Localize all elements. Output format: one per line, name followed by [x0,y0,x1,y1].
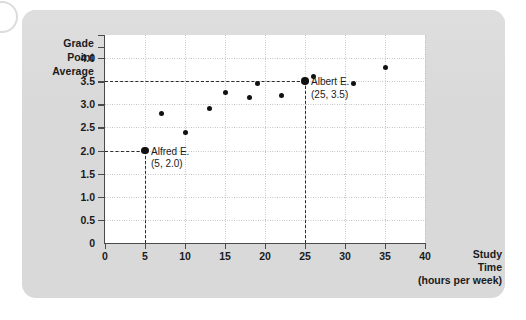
data-point [383,65,388,70]
x-axis-tick-label: 30 [330,250,360,262]
x-axis-title-line3: (hours per week) [398,274,502,287]
gridline-horizontal [105,197,425,198]
annotation: Albert E.(25, 3.5) [311,76,349,101]
gridline-horizontal [105,174,425,175]
y-axis-origin-label: 0 [55,237,95,249]
data-point [279,93,284,98]
gridline-horizontal [105,127,425,128]
x-axis-tick [265,243,266,249]
gridline-horizontal [105,104,425,105]
x-axis-tick-label: 25 [290,250,320,262]
gridline-vertical [185,35,186,243]
x-axis-tick [305,243,306,249]
gridline-horizontal [105,220,425,221]
x-axis-tick [185,243,186,249]
y-axis-tick-label: 3.0 [55,98,95,110]
x-axis-tick [105,243,106,249]
annotation: Alfred E.(5, 2.0) [151,146,189,171]
y-axis-tick [98,81,105,82]
data-point [183,130,188,135]
y-axis-title-line2: Point [38,51,94,63]
y-axis-tick-label: 3.5 [55,75,95,87]
data-point-highlighted [301,77,309,85]
gridline-vertical [425,35,426,243]
data-point [351,81,356,86]
y-axis-tick-label: 2.0 [55,145,95,157]
x-axis-tick [345,243,346,249]
annotation-name: Albert E. [311,76,349,89]
annotation-coords: (25, 3.5) [311,89,349,102]
data-point-highlighted [141,147,149,155]
y-axis-tick [98,220,105,221]
x-axis-tick-label: 0 [90,250,120,262]
annotation-coords: (5, 2.0) [151,158,189,171]
gridline-vertical [265,35,266,243]
y-axis-line [104,35,105,244]
x-axis-tick [385,243,386,249]
y-axis-tick [98,197,105,198]
figure-stage: 05101520253035400.51.01.52.02.53.03.54.0… [0,0,526,320]
y-axis-tick [98,58,105,59]
data-point [223,90,228,95]
guide-line-vertical [305,81,306,243]
x-axis-tick [145,243,146,249]
x-axis-title-line1: Study [428,248,502,261]
annotation-name: Alfred E. [151,146,189,159]
y-axis-tick-label: 1.5 [55,168,95,180]
y-axis-title-line3: Average [38,65,94,77]
data-point [247,95,252,100]
guide-line-vertical [145,151,146,243]
guide-line-horizontal [105,81,305,82]
gridline-horizontal [105,58,425,59]
x-axis-tick-label: 20 [250,250,280,262]
x-axis-tick [225,243,226,249]
data-point [159,111,164,116]
y-axis-tick [98,151,105,152]
y-axis-tick [98,127,105,128]
y-axis-tick [98,174,105,175]
y-axis-title-line1: Grade [38,37,94,49]
data-point [255,81,260,86]
x-axis-tick [425,243,426,249]
y-axis-tick-label: 0.5 [55,214,95,226]
y-axis-tick [98,47,105,48]
gridline-vertical [345,35,346,243]
x-axis-tick-label: 10 [170,250,200,262]
x-axis-tick-label: 35 [370,250,400,262]
y-axis-tick [98,35,105,36]
gridline-vertical [225,35,226,243]
x-axis-tick-label: 15 [210,250,240,262]
y-axis-tick [98,104,105,105]
guide-line-horizontal [105,151,145,152]
y-axis-tick-label: 1.0 [55,191,95,203]
y-axis-tick-label: 2.5 [55,121,95,133]
circle-outline-icon [0,1,18,33]
x-axis-title-line2: Time [428,261,502,274]
plot-area [105,35,425,243]
x-axis-tick-label: 5 [130,250,160,262]
